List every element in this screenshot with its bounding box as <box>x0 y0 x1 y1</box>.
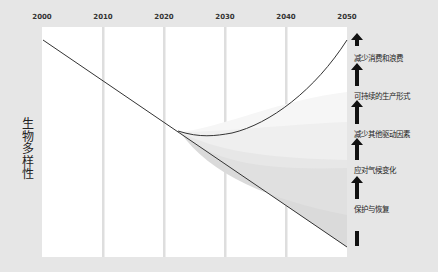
arrow-up-icon <box>351 33 363 46</box>
lever-label-sustainable-production: 可持续的生产形式 <box>354 90 410 101</box>
arrow-up-icon <box>351 176 363 199</box>
lever-label-protection: 保护与恢复 <box>354 203 389 214</box>
arrow-up-icon <box>351 100 363 124</box>
lever-label-climate: 应对气候变化 <box>354 164 396 175</box>
bar-marker-icon <box>355 231 359 246</box>
y-axis-title: 生物多样性 <box>21 118 35 181</box>
arrow-up-icon <box>351 63 363 86</box>
lever-arrows <box>351 33 363 246</box>
lever-label-other-drivers: 减少其他驱动因素 <box>354 128 410 139</box>
lever-label-reduce-consumption: 减少消费和浪费 <box>354 52 403 63</box>
arrow-up-icon <box>351 138 363 160</box>
